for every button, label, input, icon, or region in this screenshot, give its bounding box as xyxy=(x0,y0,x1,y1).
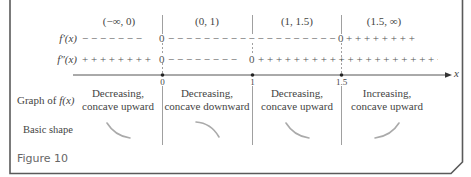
shape-decreasing-concave-up-icon xyxy=(107,123,130,138)
first-derivative-zero-at-0: 0 xyxy=(159,32,165,44)
graph-row-label: Graph of f(x) xyxy=(17,94,74,106)
first-derivative-label: f′(x) xyxy=(59,32,77,44)
figure-caption: Figure 10 xyxy=(17,152,68,165)
graph-description-interval-4: Increasing, concave upward xyxy=(351,87,423,113)
axis-tick-1-5: 1.5 xyxy=(336,77,347,87)
description-line1: Increasing, xyxy=(351,87,423,100)
description-line1: Decreasing, xyxy=(261,87,333,100)
graph-description-interval-3: Decreasing, concave upward xyxy=(261,87,333,113)
x-axis xyxy=(73,72,452,77)
first-derivative-signs-interval-4: + + + + + + + + xyxy=(346,32,415,44)
description-line1: Decreasing, xyxy=(164,87,249,100)
description-line2: concave downward xyxy=(164,100,249,113)
second-derivative-signs-interval-3-4: + + + + + + + + + + + + + + + + + + + + … xyxy=(258,53,438,65)
description-line2: concave upward xyxy=(82,100,154,113)
description-line2: concave upward xyxy=(261,100,333,113)
interval-header-0-1: (0, 1) xyxy=(195,15,219,27)
second-derivative-label: f″(x) xyxy=(57,53,77,65)
axis-label-x: x xyxy=(454,67,459,79)
shape-decreasing-concave-up-icon xyxy=(286,123,309,138)
second-derivative-zero-at-1: 0 xyxy=(249,53,255,65)
second-derivative-signs-interval-1: + + + + + + + + xyxy=(82,53,151,65)
shape-decreasing-concave-down-icon xyxy=(196,122,219,137)
axis-tick-1: 1 xyxy=(250,77,255,87)
first-derivative-signs-interval-2-3: − − − − − − − − − − − − − − − − − − − − xyxy=(168,32,338,44)
interval-header-neg-inf-0: (−∞, 0) xyxy=(103,15,135,27)
interval-header-1-1-5: (1, 1.5) xyxy=(281,15,313,27)
second-derivative-zero-at-0: 0 xyxy=(159,53,165,65)
graph-description-interval-1: Decreasing, concave upward xyxy=(82,87,154,113)
description-line1: Decreasing, xyxy=(82,87,154,100)
axis-tick-0: 0 xyxy=(160,77,165,87)
graph-description-interval-2: Decreasing, concave downward xyxy=(164,87,249,113)
axis-arrow-icon xyxy=(445,72,452,77)
description-line2: concave upward xyxy=(351,100,423,113)
shape-increasing-concave-up-icon xyxy=(375,123,399,138)
graph-row-label-func: f(x) xyxy=(59,94,74,106)
interval-header-1-5-inf: (1.5, ∞) xyxy=(367,15,401,27)
first-derivative-zero-at-1-5: 0 xyxy=(338,32,344,44)
basic-shapes xyxy=(107,122,399,138)
first-derivative-signs-interval-1: − − − − − − − xyxy=(82,32,142,44)
basic-shape-label: Basic shape xyxy=(23,124,73,135)
second-derivative-signs-interval-2: − − − − − − − − xyxy=(168,53,248,65)
graph-row-label-prefix: Graph of xyxy=(17,94,59,106)
